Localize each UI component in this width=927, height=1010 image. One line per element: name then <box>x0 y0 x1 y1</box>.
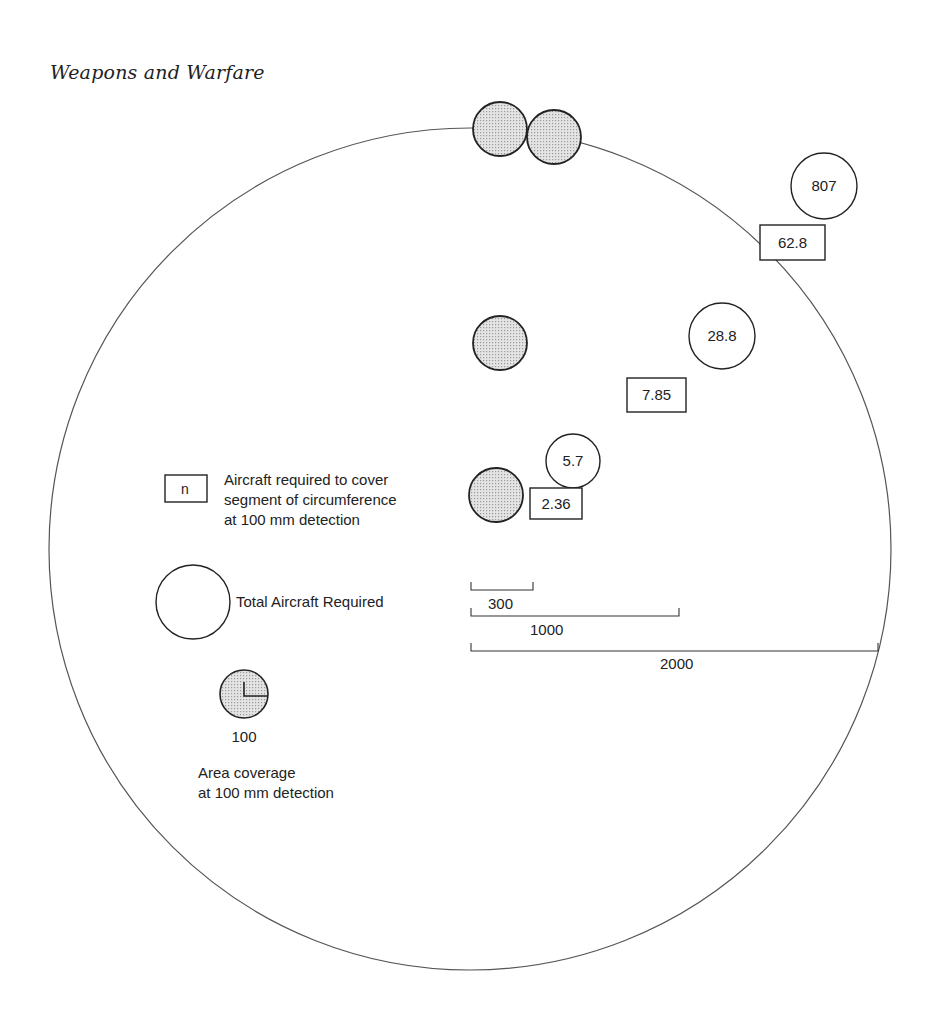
legend-radius-label: 100 <box>231 728 256 745</box>
scale-label: 300 <box>488 595 513 612</box>
scale-bar-300 <box>471 582 533 590</box>
legend-area-line-2: at 100 mm detection <box>198 784 334 801</box>
legend-segment-line-3: at 100 mm detection <box>224 511 360 528</box>
coverage-circle-mid <box>473 316 527 370</box>
legend-segment-line-2: segment of circumference <box>224 491 397 508</box>
legend-area-line-1: Area coverage <box>198 764 296 781</box>
scale-label: 2000 <box>660 655 693 672</box>
segment-value: 62.8 <box>778 234 807 251</box>
total-aircraft-circles: 80728.85.7 <box>546 153 857 488</box>
legend-total-label: Total Aircraft Required <box>236 593 384 610</box>
coverage-diagram: 80728.85.7 62.87.852.36 30010002000 n Ai… <box>0 0 927 1010</box>
scale-label: 1000 <box>530 621 563 638</box>
legend-circle-icon <box>156 565 230 639</box>
total-aircraft-value: 28.8 <box>707 327 736 344</box>
legend-area: 100 Area coverage at 100 mm detection <box>198 670 334 801</box>
segment-value: 7.85 <box>642 386 671 403</box>
coverage-circle-top-right <box>527 110 581 164</box>
coverage-circle-top-left <box>473 102 527 156</box>
coverage-circle-lower <box>469 468 523 522</box>
total-aircraft-value: 807 <box>811 177 836 194</box>
legend-box-symbol: n <box>181 481 189 497</box>
legend-total: Total Aircraft Required <box>156 565 384 639</box>
segment-value: 2.36 <box>541 495 570 512</box>
scale-bars: 30010002000 <box>471 582 878 672</box>
legend-segment-line-1: Aircraft required to cover <box>224 471 388 488</box>
total-aircraft-value: 5.7 <box>563 452 584 469</box>
scale-bar-2000 <box>471 643 878 651</box>
legend-segment: n Aircraft required to cover segment of … <box>165 471 397 528</box>
